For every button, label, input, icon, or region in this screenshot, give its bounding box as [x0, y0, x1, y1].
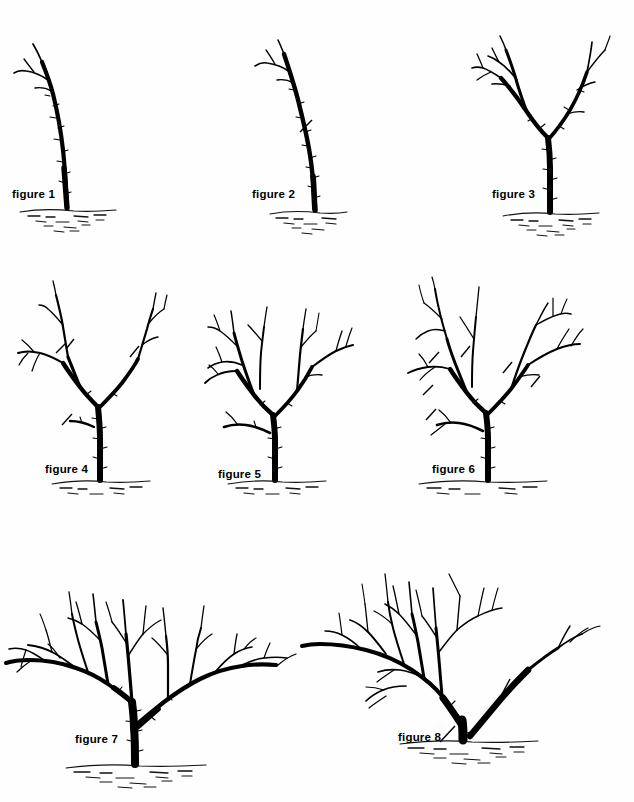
lateral-left-lower — [472, 67, 501, 78]
tree-1 — [14, 44, 116, 232]
lateral-8L6b — [366, 687, 384, 690]
pruning-cut-mark — [503, 362, 512, 373]
figure-panel-1 — [8, 28, 128, 240]
figure-1-drawing — [8, 28, 128, 240]
figure-2-label: figure 2 — [252, 188, 295, 200]
lateral-left-lower-tip — [477, 54, 483, 68]
limb-center-tip — [264, 307, 267, 327]
lateral-left-down — [19, 353, 28, 365]
spur — [54, 139, 60, 140]
tree-6 — [408, 277, 583, 494]
lateral-8C2 — [439, 630, 457, 652]
lateral-left-up — [22, 340, 34, 352]
lateral-7C1b — [106, 602, 112, 622]
ground-soil — [228, 481, 326, 494]
tree-8 — [302, 574, 600, 764]
pruning-cut-mark — [440, 726, 455, 742]
ground-soil — [400, 741, 538, 764]
limb-center-tip — [476, 287, 479, 317]
scaffold-left-upper — [447, 339, 467, 393]
figure-5-label: figure 5 — [218, 468, 261, 480]
limb-right-up-tip — [303, 309, 306, 329]
lateral-8L7 — [369, 696, 386, 708]
limb-upper-right — [138, 309, 153, 359]
scaffold-left-thick — [114, 688, 132, 702]
limb-marked-upper — [528, 648, 558, 670]
lateral-8L3b — [365, 604, 368, 632]
shoot-upper-left — [255, 63, 290, 72]
lateral-7R3b — [234, 634, 237, 654]
lateral-right-mid — [577, 82, 595, 90]
trunk-taper — [313, 176, 315, 210]
scaffold-left-upper — [506, 50, 527, 112]
pruning-cut-mark — [423, 385, 433, 395]
limb-upper-right-tip — [153, 293, 156, 309]
limb-low-left — [437, 423, 483, 431]
lateral-7C3 — [143, 620, 161, 634]
scaffold-left-up — [412, 614, 424, 678]
tree-2 — [255, 40, 347, 234]
shoot-upper-left-tip — [24, 59, 34, 72]
scaffold-center-tip — [123, 600, 126, 634]
pruning-cut-mark — [66, 339, 74, 349]
lateral-C1 — [248, 325, 262, 341]
figure-panel-8 — [300, 548, 634, 800]
figure-7-drawing — [0, 552, 305, 800]
figure-6-drawing — [395, 275, 634, 495]
lateral-L2-tip — [216, 347, 222, 362]
lateral-R1b — [316, 313, 319, 331]
lateral-R3 — [346, 328, 352, 346]
lateral-7R1b — [152, 638, 167, 654]
shoot-upper-left-tip — [266, 50, 275, 64]
scaffold-left-tip — [231, 311, 234, 333]
lateral-8L6 — [366, 686, 406, 701]
pruning-cut-mark — [461, 346, 470, 357]
figure-panel-6 — [395, 275, 634, 495]
illustration-page: figure 1 — [0, 0, 634, 802]
lateral-L1b — [419, 285, 424, 303]
pruning-cut-mark — [62, 414, 72, 425]
lateral-8C3 — [457, 616, 478, 630]
lateral-7R4b — [264, 643, 270, 658]
lateral-8C3b — [478, 588, 484, 616]
scaffold-right — [98, 359, 138, 409]
leader-tip — [278, 40, 284, 54]
limb-center — [472, 317, 476, 387]
scaffold-right — [134, 664, 276, 727]
scaffold-left-heavy-base — [443, 698, 461, 724]
scaffold-left-up-tip — [409, 582, 412, 614]
figure-panel-3 — [455, 28, 633, 240]
shoot-upper-left — [14, 71, 48, 80]
spur — [540, 124, 545, 128]
scaffold-left-up — [96, 622, 108, 684]
figure-4-label: figure 4 — [45, 463, 88, 475]
figure-5-drawing — [190, 285, 370, 495]
ground-soil — [20, 210, 116, 232]
limb-R-up — [511, 325, 536, 389]
limb-upper-left-tip — [53, 281, 56, 295]
lateral-7R2 — [190, 628, 201, 684]
pruning-cut-mark — [130, 346, 139, 357]
scaffold-right — [487, 365, 528, 415]
lateral-7R1-tip — [163, 608, 166, 636]
lateral-7R2-tip — [201, 606, 204, 628]
lateral-L3-tip — [209, 365, 218, 374]
lateral-8C1b — [416, 590, 422, 616]
figure-8-label: figure 8 — [398, 731, 441, 743]
limb-L-up-tip — [432, 277, 435, 289]
lateral-8C4 — [449, 574, 460, 596]
ground-soil — [270, 212, 347, 234]
figure-panel-5 — [190, 285, 370, 495]
figure-8-drawing — [300, 548, 634, 800]
leader-tip — [33, 44, 42, 62]
scaffold-right-far — [312, 345, 353, 367]
spur — [45, 95, 50, 96]
lateral-right-up2 — [164, 295, 167, 309]
ground-soil — [52, 481, 150, 494]
spur — [564, 107, 569, 110]
scaffold-left — [6, 660, 132, 702]
figure-3-drawing — [455, 28, 633, 240]
figure-6-label: figure 6 — [432, 463, 475, 475]
lateral-right-upper2 — [605, 36, 610, 50]
figure-4-drawing — [8, 275, 188, 495]
